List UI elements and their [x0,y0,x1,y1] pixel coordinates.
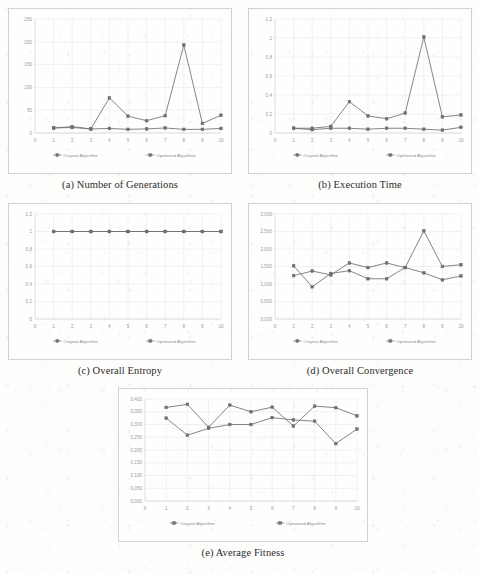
data-point[interactable] [348,269,351,272]
data-point[interactable] [404,127,407,130]
data-point[interactable] [460,114,463,117]
chart-e[interactable]: 0,0000,0500,1000,1500,2000,2500,3000,350… [119,389,369,541]
data-point[interactable] [367,277,370,280]
data-point[interactable] [404,266,407,269]
data-point[interactable] [182,44,185,47]
data-point[interactable] [385,277,388,280]
data-point[interactable] [250,423,253,426]
data-point[interactable] [228,423,231,426]
data-point[interactable] [348,127,351,130]
legend-label-0[interactable]: Original Algorithm [63,153,98,158]
legend-label-1[interactable]: Optimized Algorithm [156,339,196,344]
data-point[interactable] [292,425,295,428]
data-point[interactable] [367,266,370,269]
data-point[interactable] [71,230,74,233]
data-point[interactable] [422,128,425,131]
data-point[interactable] [186,403,189,406]
y-axis-tick-label: 150 [24,62,32,67]
legend-label-0[interactable]: Original Algorithm [180,521,215,526]
data-point[interactable] [127,115,130,118]
data-point[interactable] [348,100,351,103]
data-point[interactable] [89,128,92,131]
data-point[interactable] [165,417,168,420]
data-point[interactable] [292,274,295,277]
legend-label-0[interactable]: Original Algorithm [63,339,98,344]
data-point[interactable] [422,271,425,274]
data-point[interactable] [52,230,55,233]
legend-label-1[interactable]: Optimized Algorithm [156,153,196,158]
data-point[interactable] [182,230,185,233]
data-point[interactable] [441,116,444,119]
data-point[interactable] [311,128,314,131]
data-point[interactable] [367,115,370,118]
data-point[interactable] [52,127,55,130]
data-point[interactable] [108,230,111,233]
data-point[interactable] [311,285,314,288]
data-point[interactable] [271,406,274,409]
data-point[interactable] [145,119,148,122]
data-point[interactable] [356,428,359,431]
data-point[interactable] [460,275,463,278]
data-point[interactable] [220,127,223,130]
data-point[interactable] [164,230,167,233]
data-point[interactable] [164,127,167,130]
data-point[interactable] [201,122,204,125]
data-point[interactable] [292,419,295,422]
data-point[interactable] [422,36,425,39]
data-point[interactable] [460,263,463,266]
data-point[interactable] [441,278,444,281]
data-point[interactable] [201,128,204,131]
data-point[interactable] [220,230,223,233]
data-point[interactable] [145,128,148,131]
chart-a[interactable]: 050100150200250012345678910Original Algo… [9,9,233,173]
data-point[interactable] [182,128,185,131]
legend-marker-0 [56,154,59,157]
data-point[interactable] [441,265,444,268]
data-point[interactable] [329,127,332,130]
data-point[interactable] [385,127,388,130]
data-point[interactable] [311,270,314,273]
data-point[interactable] [334,442,337,445]
data-point[interactable] [250,410,253,413]
legend-label-1[interactable]: Optimized Algorithm [286,521,326,526]
data-point[interactable] [220,114,223,117]
data-point[interactable] [385,262,388,265]
data-point[interactable] [71,126,74,129]
data-point[interactable] [292,127,295,130]
data-point[interactable] [356,414,359,417]
data-point[interactable] [460,126,463,129]
data-point[interactable] [145,230,148,233]
data-point[interactable] [334,406,337,409]
data-point[interactable] [89,230,92,233]
data-point[interactable] [186,434,189,437]
legend-label-0[interactable]: Original Algorithm [303,153,338,158]
data-point[interactable] [292,264,295,267]
data-point[interactable] [271,416,274,419]
legend-label-1[interactable]: Optimized Algorithm [396,153,436,158]
data-point[interactable] [165,406,168,409]
data-point[interactable] [313,420,316,423]
data-point[interactable] [228,404,231,407]
data-point[interactable] [108,127,111,130]
data-point[interactable] [404,112,407,115]
legend-label-1[interactable]: Optimized Algorithm [396,339,436,344]
chart-d[interactable]: 0,0000,5001,0001,5002,0002,5003,00001234… [249,204,473,359]
data-point[interactable] [329,274,332,277]
data-point[interactable] [201,230,204,233]
data-point[interactable] [313,405,316,408]
data-point[interactable] [441,129,444,132]
chart-c[interactable]: 00,20,40,60,811,2012345678910Original Al… [9,204,233,359]
data-point[interactable] [385,117,388,120]
chart-b[interactable]: 00,20,40,60,811,2012345678910Original Al… [249,9,473,173]
data-point[interactable] [422,229,425,232]
data-point[interactable] [348,262,351,265]
data-point[interactable] [108,97,111,100]
data-point[interactable] [164,114,167,117]
data-point[interactable] [127,230,130,233]
data-point[interactable] [367,128,370,131]
x-axis-tick-label: 7 [164,138,167,143]
data-point[interactable] [127,128,130,131]
x-axis-tick-label: 10 [218,324,224,329]
data-point[interactable] [207,426,210,429]
legend-label-0[interactable]: Original Algorithm [303,339,338,344]
